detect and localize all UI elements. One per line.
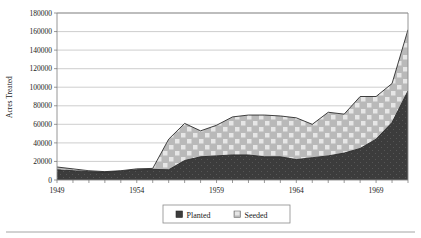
x-tick-label: 1954 — [129, 186, 144, 195]
y-tick-label: 60000 — [33, 120, 52, 129]
legend-swatch-planted — [176, 211, 183, 218]
y-tick-label: 0 — [48, 176, 52, 185]
y-tick-label: 160000 — [30, 27, 53, 36]
y-axis-title: Acres Treated — [5, 76, 14, 118]
legend-label-planted: Planted — [187, 211, 211, 220]
y-tick-label: 40000 — [33, 139, 52, 148]
x-tick-label: 1964 — [289, 186, 304, 195]
y-tick-label: 180000 — [30, 9, 53, 18]
stacked-area-chart: 0200004000060000800001000001200001400001… — [0, 0, 421, 238]
legend-swatch-seeded — [234, 211, 241, 218]
y-tick-label: 120000 — [30, 64, 53, 73]
y-tick-label: 80000 — [33, 101, 52, 110]
x-tick-label: 1949 — [50, 186, 65, 195]
legend-label-seeded: Seeded — [245, 211, 268, 220]
x-axis-tick-labels: 19491954195919641969 — [50, 186, 384, 195]
x-tick-label: 1959 — [209, 186, 224, 195]
y-tick-label: 20000 — [33, 157, 52, 166]
y-tick-label: 100000 — [30, 83, 53, 92]
chart-figure: 0200004000060000800001000001200001400001… — [0, 0, 421, 238]
x-tick-label: 1969 — [369, 186, 384, 195]
y-axis-tick-labels: 0200004000060000800001000001200001400001… — [30, 9, 53, 185]
y-tick-label: 140000 — [30, 46, 53, 55]
chart-legend: Planted Seeded — [163, 205, 290, 223]
